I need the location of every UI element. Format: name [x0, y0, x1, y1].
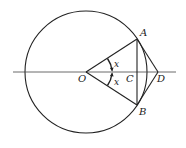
segment-ad	[137, 39, 158, 72]
label-point-d: D	[156, 73, 165, 84]
angle-arrowhead-lower	[110, 73, 114, 77]
label-angle-upper: x	[114, 59, 119, 69]
diagram-canvas: A B C D O x x	[0, 0, 186, 148]
label-point-o: O	[78, 73, 86, 84]
label-angle-lower: x	[114, 77, 119, 87]
segment-bd	[137, 72, 158, 105]
label-point-c: C	[126, 73, 134, 84]
label-point-b: B	[138, 106, 146, 117]
label-point-a: A	[139, 27, 147, 38]
geometry-diagram: A B C D O x x	[0, 0, 186, 148]
